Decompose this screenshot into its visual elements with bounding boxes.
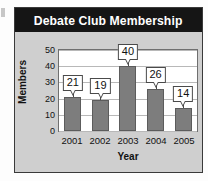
x-tick-label: 2002 [86, 135, 114, 148]
callout-tail [125, 59, 131, 65]
page-edge-artifact [1, 8, 5, 17]
y-tick-label: 40 [35, 62, 55, 71]
bar[interactable] [175, 108, 192, 131]
bar-slot: 40 [114, 50, 142, 131]
bar[interactable] [147, 89, 164, 131]
callout-tail [70, 90, 76, 96]
bar-slot: 21 [59, 50, 87, 131]
data-label-callout: 19 [90, 78, 110, 94]
x-axis-label: Year [58, 151, 198, 162]
gridline [59, 131, 197, 132]
y-axis-label: Members [17, 53, 29, 111]
callout-tail [180, 101, 186, 107]
y-tick-label: 30 [35, 78, 55, 87]
x-tick-label: 2004 [142, 135, 170, 148]
y-tick-label: 0 [35, 127, 55, 136]
x-tick-label: 2003 [114, 135, 142, 148]
callout-tail [153, 82, 159, 88]
bar-slot: 14 [169, 50, 197, 131]
bar-slot: 19 [87, 50, 115, 131]
bar[interactable] [64, 97, 81, 131]
x-tick-label: 2005 [170, 135, 198, 148]
callout-tail [97, 93, 103, 99]
y-axis-ticks: 50403020100 [35, 49, 55, 132]
bar[interactable] [92, 100, 109, 131]
x-axis-ticks: 20012002200320042005 [58, 135, 198, 148]
x-tick-label: 2001 [58, 135, 86, 148]
chart-title: Debate Club Membership [34, 13, 183, 28]
data-label-callout: 40 [118, 44, 138, 60]
bar-slot: 26 [142, 50, 170, 131]
y-tick-label: 10 [35, 111, 55, 120]
data-label-callout: 21 [63, 75, 83, 91]
chart-figure: Debate Club Membership Members 504030201… [0, 0, 208, 181]
bar[interactable] [119, 66, 136, 131]
chart-panel: Debate Club Membership Members 504030201… [14, 7, 203, 173]
chart-title-bar: Debate Club Membership [15, 8, 202, 32]
plot-area-wrapper: Members 50403020100 2119402614 200120022… [15, 32, 202, 174]
y-tick-label: 50 [35, 46, 55, 55]
data-label-callout: 14 [173, 86, 193, 102]
plot-area: 2119402614 [58, 49, 198, 132]
data-label-callout: 26 [145, 67, 165, 83]
bar-series: 2119402614 [59, 50, 197, 131]
y-tick-label: 20 [35, 95, 55, 104]
